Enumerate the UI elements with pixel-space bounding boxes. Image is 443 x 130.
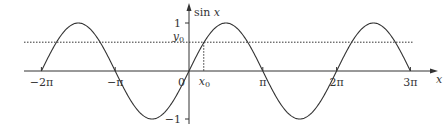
x-tick-label: 2π <box>329 76 343 89</box>
y-tick-label: 1 <box>174 17 181 30</box>
x-axis-label: x <box>436 73 443 86</box>
x-tick-label: π <box>259 76 266 89</box>
x-tick-label: −2π <box>30 76 53 89</box>
x0-label: x0 <box>199 75 210 89</box>
sine-chart: −2π−π0π2π3π1−1sin xxy0x0 <box>0 0 443 130</box>
plot-area: −2π−π0π2π3π1−1sin xxy0x0 <box>0 0 443 130</box>
y-axis-arrow-icon <box>187 3 192 11</box>
y0-label: y0 <box>172 30 184 44</box>
y-tick-label: −1 <box>165 113 181 126</box>
x-tick-label: 3π <box>403 76 417 89</box>
y-axis-label: sin x <box>194 6 221 19</box>
